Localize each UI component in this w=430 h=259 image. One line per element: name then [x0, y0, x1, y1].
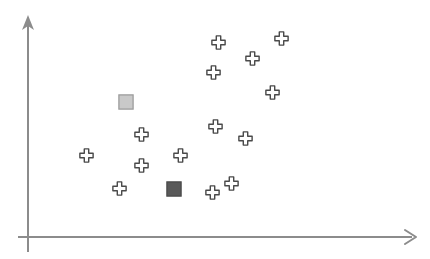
- data-point-cross-0-7: [238, 131, 253, 146]
- data-point-cross-0-10: [173, 148, 188, 163]
- data-point-square-2-0: [166, 181, 182, 197]
- data-point-cross-0-13: [224, 176, 239, 191]
- data-point-cross-0-0: [211, 35, 226, 50]
- data-point-cross-0-3: [206, 65, 221, 80]
- data-point-cross-0-8: [79, 148, 94, 163]
- data-point-cross-0-11: [112, 181, 127, 196]
- scatter-plot-figure: [0, 0, 430, 259]
- data-point-cross-0-1: [274, 31, 289, 46]
- data-point-cross-0-5: [134, 127, 149, 142]
- data-point-cross-0-9: [134, 158, 149, 173]
- y-axis: [22, 15, 34, 252]
- data-point-square-1-0: [118, 94, 134, 110]
- data-point-cross-0-12: [205, 185, 220, 200]
- data-point-cross-0-2: [245, 51, 260, 66]
- data-point-cross-0-4: [265, 85, 280, 100]
- data-point-cross-0-6: [208, 119, 223, 134]
- x-axis: [18, 230, 416, 244]
